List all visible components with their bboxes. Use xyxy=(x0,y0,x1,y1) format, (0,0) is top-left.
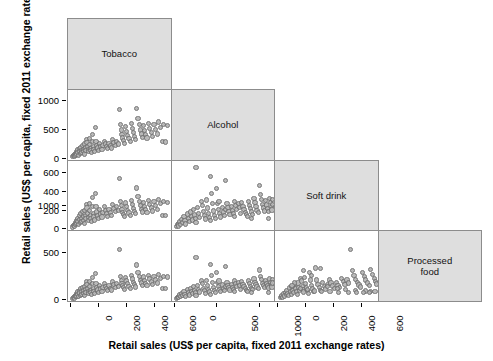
data-point xyxy=(208,262,213,267)
x-tick-mark xyxy=(333,303,334,307)
x-tick-label: 200 xyxy=(131,316,142,350)
data-point xyxy=(223,264,228,269)
y-tick-mark xyxy=(62,228,66,229)
data-point xyxy=(249,290,254,295)
data-point xyxy=(327,289,332,294)
data-point xyxy=(155,207,160,212)
data-point xyxy=(165,274,170,279)
scatterplot-matrix: TobaccoAlcoholSoft drinkProcessed food xyxy=(67,18,481,305)
diagonal-panel-alcohol: Alcohol xyxy=(171,89,276,161)
data-point xyxy=(128,213,133,218)
data-point xyxy=(214,186,219,191)
data-point xyxy=(216,278,221,283)
y-tick-mark xyxy=(62,210,66,211)
data-point xyxy=(336,290,341,295)
data-point xyxy=(155,131,160,136)
data-point xyxy=(266,290,271,295)
x-tick-mark xyxy=(216,303,217,307)
x-tick-mark xyxy=(259,303,260,307)
data-point xyxy=(346,280,351,285)
data-point xyxy=(302,275,307,280)
y-tick-mark xyxy=(62,299,66,300)
data-point xyxy=(133,211,138,216)
data-point xyxy=(367,283,372,288)
y-tick-label: 500 xyxy=(23,247,59,258)
y-tick-label: 600 xyxy=(23,167,59,178)
data-point xyxy=(223,178,228,183)
data-point xyxy=(266,216,271,221)
data-point xyxy=(193,255,198,260)
data-point xyxy=(205,205,210,210)
data-point xyxy=(308,277,313,282)
data-point xyxy=(163,286,168,291)
scatter-panel-tobacco-vs-soft-drink xyxy=(67,160,172,232)
data-point xyxy=(129,121,134,126)
data-point xyxy=(318,266,323,271)
data-point xyxy=(256,210,261,215)
data-point xyxy=(134,185,139,190)
y-tick-mark xyxy=(62,129,66,130)
data-point xyxy=(90,132,95,137)
data-point xyxy=(208,174,213,179)
x-tick-label: 400 xyxy=(366,316,377,350)
splom-figure: Retail sales (US$ per capita, fixed 2011… xyxy=(0,0,493,361)
data-point xyxy=(116,141,121,146)
y-tick-mark xyxy=(62,205,66,206)
x-tick-label: 0 xyxy=(103,316,114,350)
diagonal-panel-label: Alcohol xyxy=(207,119,238,130)
data-point xyxy=(93,271,98,276)
x-tick-label: 200 xyxy=(338,316,349,350)
data-point xyxy=(117,176,122,181)
x-tick-label: 600 xyxy=(187,316,198,350)
data-point xyxy=(319,289,324,294)
data-point xyxy=(155,280,160,285)
y-tick-mark xyxy=(62,172,66,173)
scatter-panel-soft-drink-vs-processed-food xyxy=(274,230,379,302)
x-axis-title: Retail sales (US$ per capita, fixed 2011… xyxy=(0,339,493,351)
data-point xyxy=(216,199,221,204)
x-tick-mark xyxy=(126,303,127,307)
data-point xyxy=(361,290,366,295)
data-point xyxy=(209,191,214,196)
diagonal-panel-soft-drink: Soft drink xyxy=(274,160,379,232)
data-point xyxy=(213,216,218,221)
data-point xyxy=(133,137,138,142)
data-point xyxy=(144,135,149,140)
x-tick-mark xyxy=(361,303,362,307)
scatter-panel-alcohol-vs-processed-food xyxy=(171,230,276,302)
y-tick-mark xyxy=(62,158,66,159)
data-point xyxy=(257,267,262,272)
diagonal-panel-label: Processed food xyxy=(407,255,452,277)
data-point xyxy=(269,207,274,212)
data-point xyxy=(346,290,351,295)
data-point xyxy=(197,215,202,220)
y-tick-label: 500 xyxy=(23,123,59,134)
y-tick-label: 0 xyxy=(23,223,59,234)
data-point xyxy=(165,200,170,205)
y-tick-label: 0 xyxy=(23,152,59,163)
data-point xyxy=(117,107,122,112)
scatter-panel-tobacco-vs-alcohol xyxy=(67,89,172,161)
y-tick-label: 1000 xyxy=(23,95,59,106)
data-point xyxy=(348,247,353,252)
data-point xyxy=(122,141,127,146)
x-tick-mark xyxy=(174,303,175,307)
data-point xyxy=(90,195,95,200)
y-tick-mark xyxy=(62,191,66,192)
x-tick-mark xyxy=(277,303,278,307)
data-point xyxy=(204,278,209,283)
data-point xyxy=(325,284,330,289)
x-tick-mark xyxy=(70,303,71,307)
data-point xyxy=(372,289,377,294)
y-tick-mark xyxy=(62,252,66,253)
data-point xyxy=(144,210,149,215)
x-tick-label: 0 xyxy=(206,316,217,350)
data-point xyxy=(209,273,214,278)
scatter-panel-tobacco-vs-processed-food xyxy=(67,230,172,302)
data-point xyxy=(367,290,372,295)
scatter-panel-alcohol-vs-soft-drink xyxy=(171,160,276,232)
data-point xyxy=(93,125,98,130)
diagonal-panel-label: Soft drink xyxy=(306,190,346,201)
y-tick-mark xyxy=(62,100,66,101)
data-point xyxy=(249,216,254,221)
